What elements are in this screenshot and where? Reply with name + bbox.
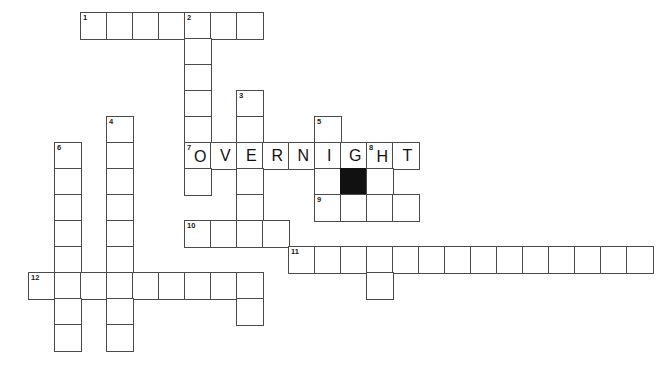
crossword-cell[interactable]: 10 (184, 220, 212, 248)
clue-number: 4 (109, 117, 113, 126)
crossword-cell[interactable]: N (288, 142, 316, 170)
crossword-cell[interactable] (54, 298, 82, 326)
crossword-cell[interactable] (158, 12, 186, 40)
crossword-cell[interactable] (366, 246, 394, 274)
crossword-cell[interactable] (54, 194, 82, 222)
crossword-cell[interactable]: 1 (80, 12, 108, 40)
crossword-cell[interactable] (626, 246, 654, 274)
crossword-cell[interactable] (366, 194, 394, 222)
crossword-cell[interactable]: 3 (236, 90, 264, 118)
crossword-cell[interactable] (106, 298, 134, 326)
crossword-cell[interactable] (54, 246, 82, 274)
crossword-cell[interactable]: E (236, 142, 264, 170)
crossword-cell[interactable] (236, 116, 264, 144)
clue-number: 12 (31, 273, 39, 282)
clue-number: 2 (187, 13, 191, 22)
crossword-cell[interactable] (210, 220, 238, 248)
crossword-cell[interactable] (54, 220, 82, 248)
crossword-cell[interactable] (132, 12, 160, 40)
crossword-cell[interactable] (106, 272, 134, 300)
clue-number: 3 (239, 91, 243, 100)
cell-letter: G (341, 143, 367, 169)
crossword-cell[interactable] (574, 246, 602, 274)
clue-number: 11 (291, 247, 299, 256)
crossword-cell[interactable] (470, 246, 498, 274)
crossword-cell[interactable]: 2 (184, 12, 212, 40)
crossword-cell[interactable] (236, 272, 264, 300)
crossword-cell[interactable] (54, 168, 82, 196)
crossword-cell[interactable] (106, 142, 134, 170)
clue-number: 5 (317, 117, 321, 126)
cell-letter: H (367, 143, 393, 169)
crossword-cell[interactable] (106, 168, 134, 196)
crossword-cell[interactable]: 8H (366, 142, 394, 170)
crossword-cell[interactable] (600, 246, 628, 274)
crossword-cell[interactable] (184, 272, 212, 300)
crossword-cell[interactable] (366, 168, 394, 196)
crossword-cell[interactable]: V (210, 142, 238, 170)
crossword-cell[interactable] (184, 38, 212, 66)
crossword-cell[interactable] (80, 272, 108, 300)
crossword-cell[interactable] (496, 246, 524, 274)
crossword-cell[interactable]: G (340, 142, 368, 170)
crossword-cell[interactable] (444, 246, 472, 274)
crossword-cell[interactable] (184, 116, 212, 144)
crossword-cell[interactable] (548, 246, 576, 274)
crossword-cell[interactable] (184, 64, 212, 92)
crossword-cell[interactable] (366, 272, 394, 300)
cell-letter: N (289, 143, 315, 169)
crossword-cell[interactable]: 7O (184, 142, 212, 170)
crossword-cell[interactable] (522, 246, 550, 274)
crossword-cell[interactable] (106, 324, 134, 352)
crossword-cell[interactable] (158, 272, 186, 300)
crossword-cell[interactable] (262, 220, 290, 248)
clue-number: 1 (83, 13, 87, 22)
crossword-cell[interactable] (236, 12, 264, 40)
crossword-grid: 1234567OVERNIG8HT9101112 (0, 0, 672, 371)
crossword-cell[interactable] (418, 246, 446, 274)
cell-letter: I (315, 143, 341, 169)
crossword-cell[interactable] (54, 272, 82, 300)
crossword-cell[interactable] (236, 220, 264, 248)
clue-number: 9 (317, 195, 321, 204)
crossword-cell[interactable] (106, 194, 134, 222)
crossword-cell[interactable] (210, 272, 238, 300)
cell-letter: O (185, 143, 211, 169)
crossword-cell[interactable] (132, 272, 160, 300)
crossword-cell[interactable] (236, 194, 264, 222)
crossword-cell[interactable]: 11 (288, 246, 316, 274)
cell-letter: V (211, 143, 237, 169)
clue-number: 6 (57, 143, 61, 152)
crossword-cell[interactable] (184, 168, 212, 196)
crossword-cell[interactable] (106, 246, 134, 274)
crossword-cell[interactable]: I (314, 142, 342, 170)
crossword-cell[interactable]: 6 (54, 142, 82, 170)
crossword-cell[interactable] (236, 168, 264, 196)
clue-number: 10 (187, 221, 195, 230)
crossword-cell[interactable] (106, 220, 134, 248)
crossword-cell[interactable] (392, 246, 420, 274)
crossword-cell[interactable] (340, 194, 368, 222)
crossword-cell[interactable] (314, 246, 342, 274)
crossword-cell[interactable]: 9 (314, 194, 342, 222)
crossword-cell[interactable]: 5 (314, 116, 342, 144)
cell-letter: R (263, 143, 289, 169)
crossword-cell[interactable]: T (392, 142, 420, 170)
crossword-cell[interactable] (210, 12, 238, 40)
crossword-cell[interactable] (392, 194, 420, 222)
crossword-block-cell (340, 168, 368, 196)
crossword-cell[interactable] (106, 12, 134, 40)
crossword-cell[interactable] (54, 324, 82, 352)
cell-letter: T (393, 143, 419, 169)
crossword-cell[interactable]: 4 (106, 116, 134, 144)
crossword-cell[interactable]: 12 (28, 272, 56, 300)
crossword-cell[interactable] (236, 298, 264, 326)
crossword-cell[interactable] (314, 168, 342, 196)
cell-letter: E (237, 143, 263, 169)
crossword-cell[interactable] (184, 90, 212, 118)
crossword-cell[interactable]: R (262, 142, 290, 170)
crossword-cell[interactable] (340, 246, 368, 274)
